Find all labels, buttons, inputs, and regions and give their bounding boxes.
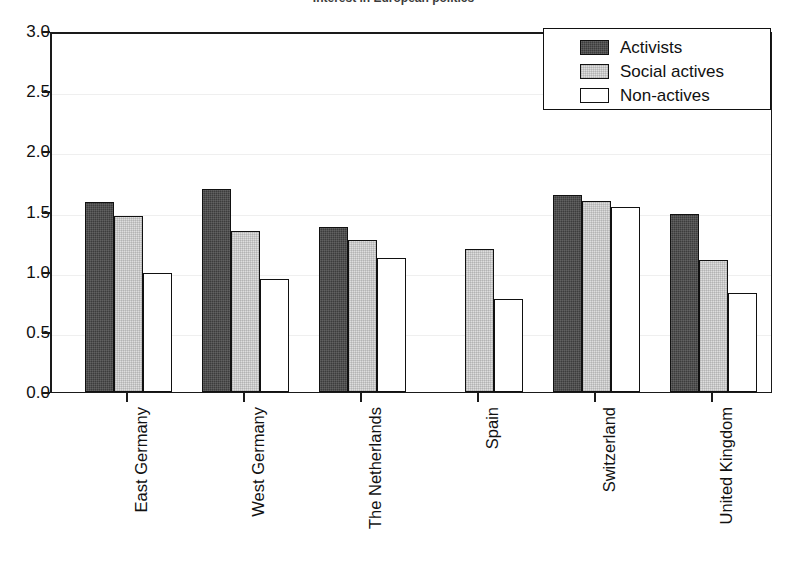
bar	[143, 273, 172, 392]
x-category-label: East Germany	[133, 407, 150, 512]
bar	[465, 249, 494, 392]
y-tick-mark	[42, 212, 50, 214]
bar	[377, 258, 406, 392]
x-axis: East GermanyWest GermanyThe NetherlandsS…	[50, 393, 772, 577]
bar	[553, 195, 582, 392]
chart-legend: ActivistsSocial activesNon-actives	[543, 28, 771, 110]
bar	[582, 201, 611, 392]
x-tick-mark	[360, 393, 362, 402]
y-axis: 0.00.51.01.52.02.53.0	[0, 32, 50, 393]
bar	[348, 240, 377, 392]
legend-label: Activists	[620, 39, 682, 56]
bar	[728, 293, 757, 392]
bar	[494, 299, 523, 392]
x-category-label: Spain	[484, 407, 501, 449]
x-tick-mark	[711, 393, 713, 402]
chart-figure: Interest in European politics 0.00.51.01…	[0, 0, 787, 577]
y-tick-mark	[42, 31, 50, 33]
legend-swatch-icon	[580, 40, 609, 55]
legend-item: Activists	[544, 35, 770, 59]
y-tick-mark	[42, 332, 50, 334]
x-tick-mark	[477, 393, 479, 402]
x-category-label: Switzerland	[601, 407, 618, 492]
gridline	[52, 154, 771, 155]
y-tick-mark	[42, 392, 50, 394]
bar	[670, 214, 699, 392]
bar	[202, 189, 231, 392]
bar	[699, 260, 728, 392]
x-category-label: West Germany	[250, 407, 267, 517]
legend-swatch-icon	[580, 88, 609, 103]
y-tick-mark	[42, 272, 50, 274]
x-category-label: The Netherlands	[367, 407, 384, 529]
bar	[85, 202, 114, 392]
x-tick-mark	[243, 393, 245, 402]
legend-item: Non-actives	[544, 83, 770, 107]
y-tick-mark	[42, 151, 50, 153]
legend-label: Non-actives	[620, 87, 710, 104]
legend-item: Social actives	[544, 59, 770, 83]
legend-swatch-icon	[580, 64, 609, 79]
y-tick-mark	[42, 91, 50, 93]
bar	[260, 279, 289, 392]
x-category-label: United Kingdom	[718, 407, 735, 524]
bar	[611, 207, 640, 392]
legend-label: Social actives	[620, 63, 724, 80]
chart-title: Interest in European politics	[0, 0, 787, 5]
bar	[114, 216, 143, 392]
x-tick-mark	[126, 393, 128, 402]
x-tick-mark	[594, 393, 596, 402]
bar	[319, 227, 348, 392]
bar	[231, 231, 260, 392]
gridline	[52, 215, 771, 216]
